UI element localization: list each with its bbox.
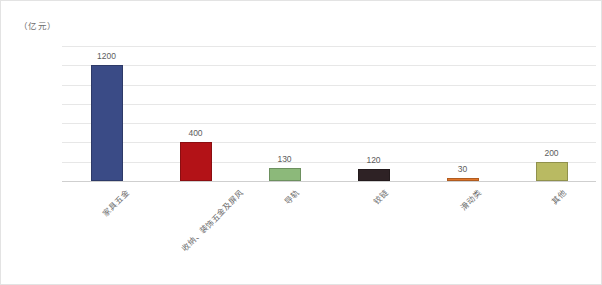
bars-layer: 120040013012030200 (62, 46, 596, 181)
x-axis-label-slot: 铰链 (329, 183, 418, 283)
bar[interactable] (536, 162, 568, 181)
x-axis-category-label: 滑动类 (457, 187, 482, 212)
bar-value-label: 1200 (97, 51, 116, 61)
x-axis-label-slot: 滑动类 (418, 183, 507, 283)
gridline (62, 181, 596, 182)
bar-group: 30 (418, 46, 507, 181)
x-axis-label-slot: 导轨 (240, 183, 329, 283)
x-axis-category-labels: 家具五金收纳、装饰五金及屏风导轨铰链滑动类其他 (62, 183, 596, 283)
x-axis-label-slot: 其他 (507, 183, 596, 283)
bar[interactable] (447, 178, 479, 181)
x-axis-category-label: 其他 (548, 187, 568, 207)
bar-value-label: 400 (188, 128, 202, 138)
x-axis-category-label: 导轨 (281, 187, 301, 207)
bar-group: 200 (507, 46, 596, 181)
bar-group: 120 (329, 46, 418, 181)
bar-value-label: 120 (366, 155, 380, 165)
x-axis-category-label: 铰链 (370, 187, 390, 207)
bar-chart-figure: （亿元） 1400120010008006004002000 120040013… (0, 0, 602, 285)
bar-value-label: 30 (458, 164, 467, 174)
x-axis-label-slot: 家具五金 (62, 183, 151, 283)
bar[interactable] (358, 169, 390, 181)
bar-value-label: 130 (277, 154, 291, 164)
y-axis-unit-label: （亿元） (19, 19, 57, 31)
bar[interactable] (180, 142, 212, 181)
bar-value-label: 200 (544, 148, 558, 158)
x-axis-category-label: 家具五金 (100, 187, 131, 218)
bar[interactable] (91, 65, 123, 181)
bar-group: 400 (151, 46, 240, 181)
bar[interactable] (269, 168, 301, 181)
bar-group: 1200 (62, 46, 151, 181)
plot-area: 1400120010008006004002000 12004001301203… (62, 46, 596, 181)
x-axis-label-slot: 收纳、装饰五金及屏风 (151, 183, 240, 283)
bar-group: 130 (240, 46, 329, 181)
x-axis-category-label: 收纳、装饰五金及屏风 (178, 187, 244, 253)
